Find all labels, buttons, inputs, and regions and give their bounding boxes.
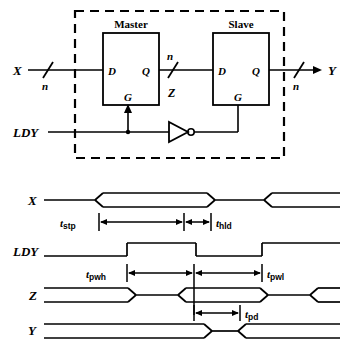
timing-row-label-x: X	[27, 193, 37, 208]
slave-pin-q: Q	[252, 65, 260, 77]
timing-group: X LDY Z Y	[12, 193, 340, 338]
bus-width-z-label: n	[167, 50, 173, 62]
measure-label-t-prop-delay: tpd	[245, 308, 258, 322]
y-output-arrowhead	[313, 66, 322, 74]
timing-row-label-z: Z	[28, 288, 37, 303]
measure-label-t-hold: thld	[216, 217, 232, 231]
timing-row-label-y: Y	[28, 323, 37, 338]
measure-label-t-pulse-low: tpwl	[267, 268, 284, 282]
master-title: Master	[114, 18, 148, 30]
master-pin-q: Q	[142, 65, 150, 77]
measure-label-t-pulse-high: tpwh	[86, 268, 106, 282]
bus-width-x-label: n	[42, 80, 48, 92]
signal-y-label: Y	[328, 63, 337, 78]
master-pin-d: D	[107, 65, 116, 77]
slave-pin-g: G	[234, 91, 242, 103]
signal-x-label: X	[12, 63, 22, 78]
not-gate-icon	[169, 122, 188, 142]
timing-row-label-ldy: LDY	[12, 244, 39, 259]
waveform-ldy	[44, 243, 340, 256]
schematic-group: n X LDY Master D Q G n Z Slave D Q G	[12, 11, 337, 158]
waveform-z	[44, 288, 340, 302]
slave-pin-d: D	[217, 65, 226, 77]
measure-label-t-setup: tstp	[60, 217, 76, 231]
waveform-x	[44, 193, 340, 207]
waveform-y	[44, 324, 340, 338]
measure-band-setup-hold	[99, 213, 211, 231]
signal-z-label: Z	[167, 86, 176, 100]
slave-title: Slave	[228, 18, 253, 30]
signal-ldy-label: LDY	[12, 125, 39, 140]
bus-width-y-label: n	[293, 80, 299, 92]
measure-band-pulse-widths	[127, 264, 262, 282]
master-pin-g: G	[124, 91, 132, 103]
measure-band-prop-delay	[194, 305, 240, 321]
figure-canvas: n X LDY Master D Q G n Z Slave D Q G	[0, 0, 346, 352]
figure-root: n X LDY Master D Q G n Z Slave D Q G	[0, 0, 346, 352]
